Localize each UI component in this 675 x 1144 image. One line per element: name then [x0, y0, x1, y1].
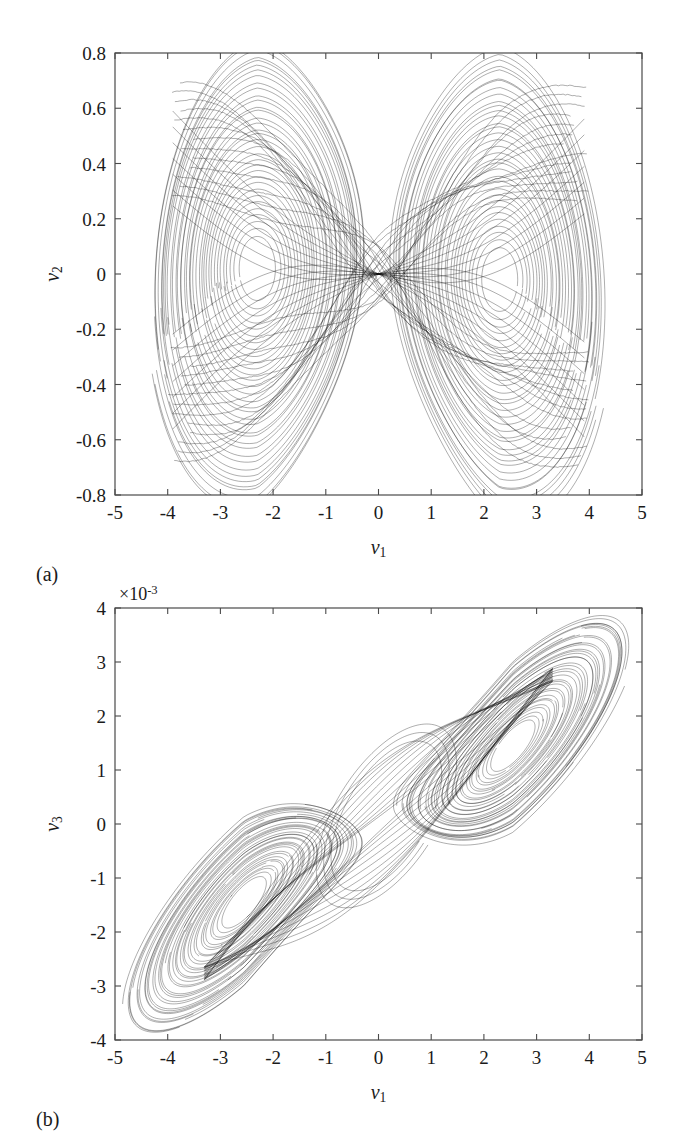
y-tick-label: 4	[97, 599, 107, 618]
panel-a: ν2 ν1 (a) -0.8-0.6-0.4-0.200.20.40.60.8-…	[0, 0, 675, 570]
y-tick-label: -0.6	[76, 430, 106, 449]
figure-double-scroll-attractors: ν2 ν1 (a) -0.8-0.6-0.4-0.200.20.40.60.8-…	[0, 0, 675, 1144]
x-tick-label: 3	[532, 503, 542, 522]
x-tick-label: -1	[318, 503, 334, 522]
x-tick-label: -4	[160, 1048, 176, 1067]
x-axis-title-b: ν1	[371, 1082, 387, 1105]
y-tick-label: 0.2	[82, 209, 106, 228]
x-tick-label: 5	[637, 1048, 647, 1067]
x-tick-label: 4	[585, 503, 595, 522]
y-tick-label: 0	[97, 265, 107, 284]
x-tick-label: -3	[212, 503, 228, 522]
y-tick-label: 0	[97, 815, 107, 834]
y-tick-label: -0.4	[76, 375, 106, 394]
y-tick-label: 0.8	[82, 44, 106, 63]
x-tick-label: 1	[426, 503, 436, 522]
y-axis-title-subscript: 2	[50, 266, 65, 273]
x-tick-label: 2	[479, 1048, 489, 1067]
y-tick-label: -3	[90, 977, 106, 996]
y-axis-title-base: ν	[41, 823, 63, 832]
y-tick-label: -0.8	[76, 486, 106, 505]
y-axis-title-base: ν	[41, 273, 63, 282]
x-tick-label: 4	[585, 1048, 595, 1067]
exponent-power: -3	[147, 583, 158, 597]
x-tick-label: 0	[374, 1048, 384, 1067]
y-axis-title-b: ν3	[42, 816, 65, 832]
x-tick-label: 5	[637, 503, 647, 522]
y-tick-label: 0.4	[82, 154, 106, 173]
y-axis-title-subscript: 3	[50, 816, 65, 823]
x-axis-title-subscript: 1	[380, 1090, 387, 1105]
plot-area-b	[0, 555, 675, 1144]
x-tick-label: -5	[107, 1048, 123, 1067]
panel-label-b: (b)	[36, 1108, 59, 1131]
x-tick-label: -5	[107, 503, 123, 522]
x-tick-label: -2	[265, 503, 281, 522]
x-tick-label: -3	[212, 1048, 228, 1067]
y-axis-title-a: ν2	[42, 266, 65, 282]
y-tick-label: -0.2	[76, 320, 106, 339]
x-tick-label: -2	[265, 1048, 281, 1067]
x-tick-label: 3	[532, 1048, 542, 1067]
x-tick-label: 2	[479, 503, 489, 522]
y-axis-exponent-b: ×10-3	[119, 584, 158, 603]
y-tick-label: 2	[97, 707, 107, 726]
exponent-mantissa: ×10	[119, 584, 147, 604]
y-tick-label: -2	[90, 923, 106, 942]
x-tick-label: 1	[426, 1048, 436, 1067]
y-tick-label: 0.6	[82, 99, 106, 118]
axis-ticks	[115, 608, 642, 1040]
x-tick-label: -4	[160, 503, 176, 522]
panel-b: ×10-3 ν3 ν1 (b) -4-3-2-101234-5-4-3-2-10…	[0, 555, 675, 1144]
x-axis-title-base: ν	[371, 1081, 380, 1103]
attractor-trajectory	[152, 40, 605, 525]
attractor-trajectory	[123, 616, 629, 1033]
x-tick-label: 0	[374, 503, 384, 522]
y-tick-label: 1	[97, 761, 107, 780]
plot-frame	[115, 608, 642, 1040]
y-tick-label: 3	[97, 653, 107, 672]
y-tick-label: -1	[90, 869, 106, 888]
y-tick-label: -4	[90, 1031, 106, 1050]
x-tick-label: -1	[318, 1048, 334, 1067]
